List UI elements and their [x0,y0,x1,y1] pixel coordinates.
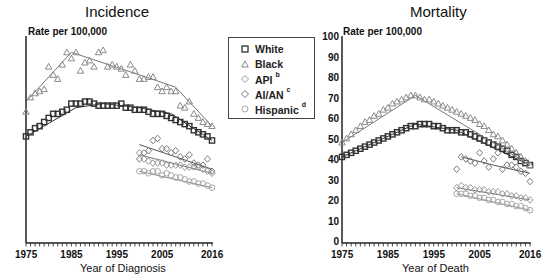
triangle-marker [77,68,83,74]
diamond-marker [454,166,460,173]
triangle-marker [86,57,92,63]
triangle-marker [154,84,160,90]
legend-label-black: Black [255,58,283,70]
triangle-marker [123,72,129,78]
triangle-marker [150,74,156,80]
square-marker-icon [241,45,249,53]
legend-item-black: Black [241,58,283,70]
legend-item-hispanic: Hispanicd [241,103,306,116]
diamond-marker-icon [241,90,249,98]
triangle-marker [177,102,183,108]
diamond-marker [490,156,496,163]
diamond-marker [186,152,192,159]
legend-item-white: White [241,43,284,55]
legend-label-hispanic: Hispanicd [255,103,306,116]
triangle-marker [64,49,70,55]
triangle-marker [100,47,106,53]
diamond-marker [477,150,483,157]
triangle-marker [91,63,97,69]
legend-item-api: APIb [241,73,280,86]
circle-marker-icon [241,105,249,113]
triangle-marker [45,63,51,69]
triangle-marker [127,61,133,67]
triangle-marker-icon [241,60,249,68]
triangle-marker [191,111,197,117]
series-black [339,92,533,167]
legend: White Black APIb AI/ANc Hispanicd [228,37,315,119]
legend-item-aian: AI/ANc [241,88,291,101]
trend-line [342,124,530,165]
series-white [339,122,532,168]
triangle-marker [132,68,138,74]
legend-label-api: APIb [255,73,280,86]
series-api [454,182,533,203]
trend-line [26,52,212,126]
triangle-marker [426,96,432,102]
diamond-marker [204,156,210,163]
triangle-marker [173,88,179,94]
diamond-marker-icon [241,75,249,83]
legend-label-white: White [255,43,284,55]
triangle-marker [41,86,47,92]
diamond-marker [527,178,533,185]
legend-label-aian: AI/ANc [255,88,291,101]
triangle-marker [68,55,74,61]
